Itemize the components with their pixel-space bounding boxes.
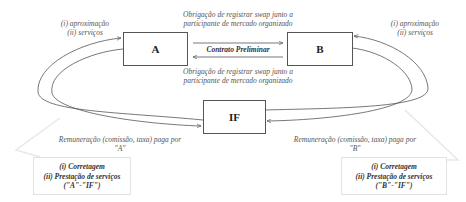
label-line: "A" (50, 144, 190, 153)
label-line: Obrigação de registrar swap junto a (168, 67, 308, 76)
label-right-approximation: (i) aproximação (ii) serviços (380, 19, 450, 37)
label-right-remuneration: Remuneração (comissão, taxa) paga por "B… (285, 135, 425, 153)
callout-line: (i) Corretagem (342, 162, 446, 172)
callout-line: (ii) Prestação de serviços (342, 172, 446, 182)
label-line: (ii) serviços (380, 28, 450, 37)
callout-line: ("A"-"IF") (34, 181, 130, 191)
label-bottom-obligation: Obrigação de registrar swap junto a part… (168, 67, 308, 85)
label-line: "B" (285, 144, 425, 153)
label-top-obligation: Obrigação de registrar swap junto a part… (168, 10, 308, 28)
callout-left: (i) Corretagem (ii) Prestação de serviço… (33, 157, 131, 195)
node-a: A (123, 32, 188, 66)
label-line: participante de mercado organizado (168, 76, 308, 85)
callout-line: ("B"-"IF") (342, 181, 446, 191)
label-line: (i) aproximação (50, 19, 120, 28)
node-b: B (287, 32, 353, 66)
label-line: Obrigação de registrar swap junto a (168, 10, 308, 19)
label-left-approximation: (i) aproximação (ii) serviços (50, 19, 120, 37)
node-if-label: IF (229, 111, 240, 123)
label-line: Remuneração (comissão, taxa) paga por (285, 135, 425, 144)
label-line: participante de mercado organizado (168, 19, 308, 28)
node-if: IF (203, 100, 266, 134)
label-contrato-preliminar: Contrato Preliminar (196, 45, 280, 54)
callout-line: (i) Corretagem (34, 162, 130, 172)
node-b-label: B (316, 43, 323, 55)
label-line: (i) aproximação (380, 19, 450, 28)
label-line: (ii) serviços (50, 28, 120, 37)
callout-line: (ii) Prestação de serviços (34, 172, 130, 182)
node-a-label: A (152, 43, 160, 55)
label-line: Remuneração (comissão, taxa) paga por (50, 135, 190, 144)
callout-right: (i) Corretagem (ii) Prestação de serviço… (341, 157, 447, 195)
label-left-remuneration: Remuneração (comissão, taxa) paga por "A… (50, 135, 190, 153)
